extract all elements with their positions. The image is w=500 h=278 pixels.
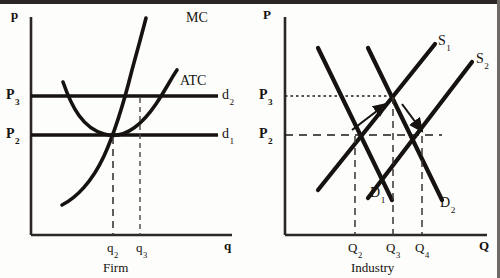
industry-x-axis-label: Q xyxy=(479,239,489,252)
firm-curve-label-d1-text: d xyxy=(222,126,229,141)
firm-y-axis-label: p xyxy=(11,8,18,21)
industry-curve-label-S2: S2 xyxy=(476,52,488,69)
firm-curve-label-MC: MC xyxy=(186,11,208,25)
firm-curve-label-d2: d2 xyxy=(222,88,234,105)
firm-x-axis-label: q xyxy=(224,239,231,252)
firm-price-label-P3-sub: 3 xyxy=(15,97,20,107)
industry-qty-label-Q4: Q4 xyxy=(415,241,429,257)
industry-qty-label-Q4-text: Q xyxy=(415,240,424,255)
firm-qty-label-q3: q3 xyxy=(136,241,147,257)
industry-qty-label-Q3-text: Q xyxy=(386,240,395,255)
industry-curve-label-S2-sub: 2 xyxy=(484,61,489,71)
industry-panel-caption: Industry xyxy=(351,261,394,274)
firm-qty-label-q3-sub: 3 xyxy=(143,250,147,260)
firm-qty-label-q2-sub: 2 xyxy=(114,250,118,260)
firm-axes xyxy=(31,17,232,235)
industry-qty-label-Q2-sub: 2 xyxy=(358,250,362,260)
industry-curve-label-D1-text: D xyxy=(370,185,380,200)
firm-price-label-P2-sub: 2 xyxy=(15,136,20,146)
industry-qty-label-Q3-sub: 3 xyxy=(396,250,400,260)
firm-plot-svg xyxy=(0,0,250,278)
industry-qty-label-Q3: Q3 xyxy=(386,241,400,257)
panel-industry: P Q P3 P2 S1 S2 D1 D2 Q2 Q3 Q4 Indust xyxy=(250,0,500,278)
panel-firm: p q P3 P2 MC ATC d2 d1 q2 q3 Firm xyxy=(0,0,250,278)
firm-panel-caption: Firm xyxy=(103,261,128,274)
industry-price-label-P3: P3 xyxy=(259,88,272,105)
industry-curve-label-D1: D1 xyxy=(370,186,385,203)
firm-qty-label-q2-text: q xyxy=(107,240,114,255)
industry-curve-label-S1-sub: 1 xyxy=(446,43,451,53)
industry-curve-label-S2-text: S xyxy=(476,51,484,66)
industry-curve-label-D2: D2 xyxy=(440,196,455,213)
industry-price-label-P2-sub: 2 xyxy=(268,136,273,146)
industry-plot-svg xyxy=(250,0,500,278)
industry-axes xyxy=(285,17,487,235)
firm-price-label-P3-text: P xyxy=(6,87,15,102)
firm-curve-label-d2-sub: 2 xyxy=(230,97,235,107)
industry-price-label-P2-text: P xyxy=(259,126,268,141)
firm-price-label-P3: P3 xyxy=(6,88,19,105)
industry-price-label-P2: P2 xyxy=(259,127,272,144)
firm-curve-label-ATC-text: ATC xyxy=(180,73,206,88)
firm-qty-label-q3-text: q xyxy=(136,240,143,255)
firm-curve-label-d1: d1 xyxy=(222,127,234,144)
firm-qty-label-q2: q2 xyxy=(107,241,118,257)
firm-price-label-P2: P2 xyxy=(6,127,19,144)
industry-price-label-P3-sub: 3 xyxy=(268,97,273,107)
industry-curve-label-D1-sub: 1 xyxy=(381,195,386,205)
firm-price-label-P2-text: P xyxy=(6,126,15,141)
firm-atc-curve xyxy=(63,70,177,135)
industry-curve-label-D2-sub: 2 xyxy=(451,205,456,215)
industry-qty-label-Q2-text: Q xyxy=(348,240,357,255)
industry-y-axis-label: P xyxy=(263,8,271,21)
industry-curve-label-S1-text: S xyxy=(438,33,446,48)
firm-curve-label-d2-text: d xyxy=(222,87,229,102)
industry-curve-label-S1: S1 xyxy=(438,34,450,51)
firm-curve-label-MC-text: MC xyxy=(186,10,208,25)
firm-curve-label-ATC: ATC xyxy=(180,74,206,88)
industry-curve-label-D2-text: D xyxy=(440,195,450,210)
industry-qty-label-Q2: Q2 xyxy=(348,241,362,257)
figure-root: p q P3 P2 MC ATC d2 d1 q2 q3 Firm xyxy=(0,0,500,278)
industry-price-label-P3-text: P xyxy=(259,87,268,102)
firm-curve-label-d1-sub: 1 xyxy=(230,136,235,146)
industry-qty-label-Q4-sub: 4 xyxy=(425,250,429,260)
